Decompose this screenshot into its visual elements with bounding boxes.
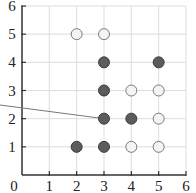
filled-point	[71, 141, 82, 152]
hollow-point	[153, 141, 164, 152]
y-tick-label: 4	[8, 54, 16, 70]
x-tick-label: 4	[128, 178, 136, 193]
hollow-point	[71, 29, 82, 40]
filled-point	[99, 141, 110, 152]
hollow-point	[126, 85, 137, 96]
y-tick-label: 2	[8, 111, 16, 127]
y-tick-label: 5	[8, 26, 16, 42]
y-tick-label: 6	[8, 0, 16, 14]
filled-point	[99, 85, 110, 96]
filled-point	[99, 57, 110, 68]
origin-label: 0	[10, 178, 18, 193]
x-tick-label: 5	[155, 178, 163, 193]
hollow-point	[153, 113, 164, 124]
y-tick-label: 3	[8, 83, 16, 99]
y-tick-label: 1	[8, 139, 16, 155]
hollow-point	[126, 141, 137, 152]
filled-point	[99, 113, 110, 124]
scatter-chart: 1234561234560	[0, 0, 196, 193]
x-tick-label: 1	[46, 178, 54, 193]
x-tick-label: 3	[100, 178, 108, 193]
x-tick-label: 6	[182, 178, 190, 193]
tick-labels: 1234561234560	[8, 0, 190, 193]
x-tick-label: 2	[73, 178, 81, 193]
hollow-point	[153, 85, 164, 96]
hollow-point	[99, 29, 110, 40]
filled-point	[126, 113, 137, 124]
filled-point	[153, 57, 164, 68]
